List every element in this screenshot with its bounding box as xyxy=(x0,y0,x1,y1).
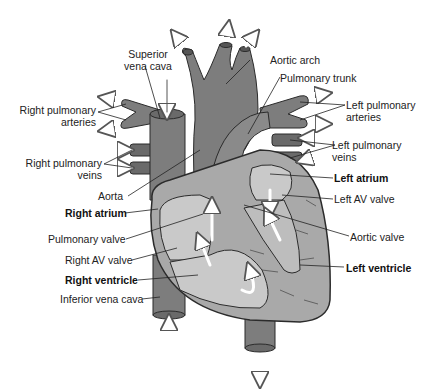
label-right-av-valve: Right AV valve xyxy=(65,254,133,266)
label-left-ventricle: Left ventricle xyxy=(346,262,411,274)
label-pulmonary-valve: Pulmonary valve xyxy=(48,233,126,245)
label-line: Right pulmonary xyxy=(10,157,102,169)
label-line: arteries xyxy=(8,116,96,128)
label-aortic-arch: Aortic arch xyxy=(270,54,320,66)
label-right-atrium: Right atrium xyxy=(65,207,127,219)
label-line: arteries xyxy=(346,111,415,123)
label-right-pulmonary-arteries: Right pulmonary arteries xyxy=(8,104,96,128)
label-line: Left pulmonary xyxy=(346,99,415,111)
label-pulmonary-trunk: Pulmonary trunk xyxy=(280,72,356,84)
label-line: veins xyxy=(332,151,401,163)
label-line: veins xyxy=(10,169,102,181)
label-line: Superior xyxy=(118,48,178,60)
label-left-av-valve: Left AV valve xyxy=(334,193,395,205)
label-aorta: Aorta xyxy=(98,190,123,202)
label-superior-vena-cava: Superior vena cava xyxy=(118,48,178,72)
label-aortic-valve: Aortic valve xyxy=(350,231,404,243)
label-left-pulmonary-veins: Left pulmonary veins xyxy=(332,139,401,163)
label-inferior-vena-cava: Inferior vena cava xyxy=(60,293,143,305)
label-line: Right pulmonary xyxy=(8,104,96,116)
label-line: vena cava xyxy=(118,60,178,72)
descending-aorta xyxy=(245,318,275,352)
label-left-atrium: Left atrium xyxy=(334,172,388,184)
label-left-pulmonary-arteries: Left pulmonary arteries xyxy=(346,99,415,123)
label-right-ventricle: Right ventricle xyxy=(65,274,138,286)
label-line: Left pulmonary xyxy=(332,139,401,151)
label-right-pulmonary-veins: Right pulmonary veins xyxy=(10,157,102,181)
